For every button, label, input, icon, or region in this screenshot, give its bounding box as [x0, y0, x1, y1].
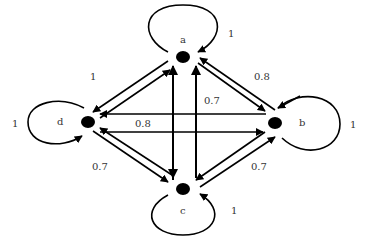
weight-d-b: 0.8 — [135, 118, 151, 129]
node-d — [81, 116, 95, 128]
edge-d-c — [93, 128, 172, 182]
node-a — [176, 51, 190, 63]
weight-loop-a: 1 — [228, 28, 234, 39]
weight-a-c: 0.7 — [204, 95, 220, 106]
node-label-b: b — [299, 117, 305, 128]
edge-b-c — [196, 132, 275, 187]
weight-loop-b: 1 — [350, 119, 356, 130]
weight-a-d: 1 — [90, 71, 96, 82]
node-label-d: d — [57, 116, 64, 127]
weight-a-b: 0.8 — [254, 71, 270, 82]
graph-diagram: a b c d 1 1 1 1 1 0.8 0.7 0.8 0.7 0.7 — [0, 0, 366, 248]
self-loop-d — [28, 101, 84, 143]
node-label-a: a — [180, 34, 186, 45]
self-loop-b — [278, 96, 340, 150]
edge-d-b — [100, 114, 266, 132]
weight-loop-c: 1 — [231, 205, 237, 216]
edge-a-c — [173, 66, 196, 180]
edge-a-d — [93, 61, 170, 118]
node-c — [176, 183, 190, 195]
node-b — [268, 117, 282, 129]
weight-d-c: 0.7 — [92, 161, 108, 172]
weight-loop-d: 1 — [12, 118, 18, 129]
weight-b-c: 0.7 — [251, 161, 267, 172]
node-label-c: c — [180, 205, 186, 216]
nodes — [81, 51, 282, 195]
